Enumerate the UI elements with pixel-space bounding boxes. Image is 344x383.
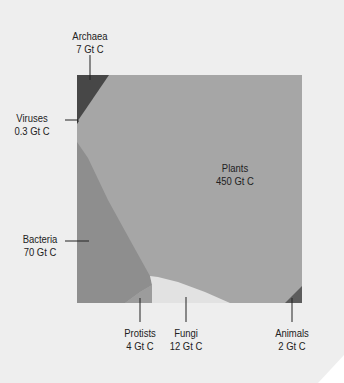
label-protists-value: 4 Gt C [114, 340, 166, 353]
label-bacteria: Bacteria 70 Gt C [14, 233, 66, 259]
label-animals-name: Animals [266, 327, 318, 340]
label-bacteria-value: 70 Gt C [14, 246, 66, 259]
label-bacteria-name: Bacteria [14, 233, 66, 246]
label-viruses: Viruses 0.3 Gt C [4, 112, 59, 138]
label-fungi-name: Fungi [160, 327, 212, 340]
label-fungi-value: 12 Gt C [160, 340, 212, 353]
label-plants: Plants 450 Gt C [205, 162, 265, 188]
label-plants-value: 450 Gt C [205, 175, 265, 188]
chart-canvas [0, 0, 344, 383]
biomass-chart: Archaea 7 Gt C Viruses 0.3 Gt C Plants 4… [0, 0, 344, 383]
label-fungi: Fungi 12 Gt C [160, 327, 212, 353]
label-viruses-value: 0.3 Gt C [4, 125, 59, 138]
label-plants-name: Plants [205, 162, 265, 175]
label-viruses-name: Viruses [4, 112, 59, 125]
label-archaea: Archaea 7 Gt C [64, 30, 116, 56]
label-protists: Protists 4 Gt C [114, 327, 166, 353]
label-animals-value: 2 Gt C [266, 340, 318, 353]
label-archaea-name: Archaea [64, 30, 116, 43]
label-animals: Animals 2 Gt C [266, 327, 318, 353]
label-protists-name: Protists [114, 327, 166, 340]
label-archaea-value: 7 Gt C [64, 43, 116, 56]
